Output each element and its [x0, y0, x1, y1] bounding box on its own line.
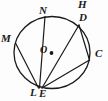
chord-D-C [79, 25, 90, 60]
point-label-C: C [95, 48, 102, 59]
point-label-M: M [1, 33, 11, 44]
center-label-O: O [40, 45, 47, 55]
circle-diagram-canvas [0, 0, 108, 101]
point-label-D: D [79, 12, 87, 23]
chord-D-E [42, 25, 79, 88]
geometry-figure: N H D M C L E O [0, 0, 108, 101]
point-label-E: E [39, 88, 46, 99]
point-label-L: L [30, 87, 37, 98]
point-label-N: N [39, 5, 47, 16]
point-label-H: H [78, 0, 87, 10]
chord-M-E [16, 43, 39, 88]
center-point-dot [50, 51, 54, 55]
